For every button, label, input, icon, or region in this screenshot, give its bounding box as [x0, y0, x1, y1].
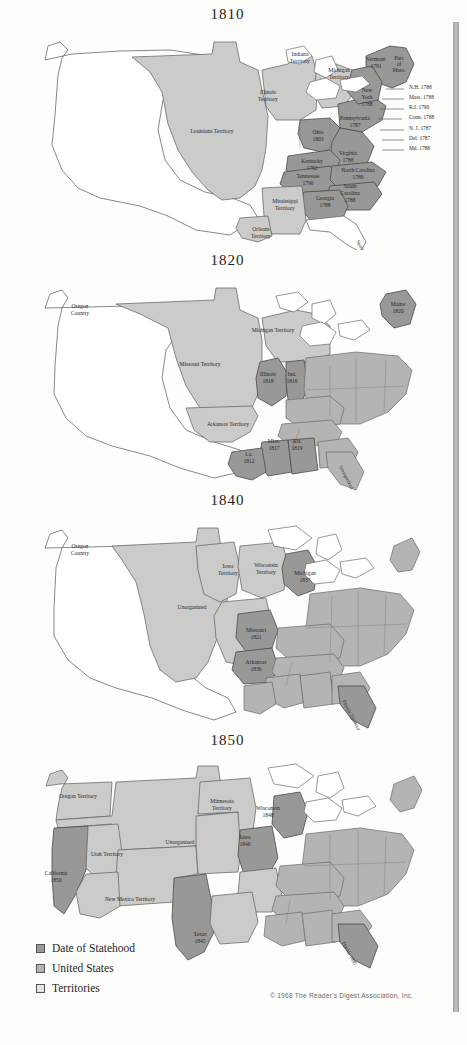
map-panel-1820: 1820 [0, 252, 455, 492]
map-label: Oregon [72, 303, 89, 309]
map-callout-label: Md. 1788 [409, 145, 430, 151]
legend: Date of Statehood United States Territor… [36, 938, 135, 998]
map-label: 1788 [361, 101, 372, 107]
map-svg-1820: OregonCountryMissouri TerritoryMichigan … [0, 266, 455, 494]
legend-item-united-states: United States [36, 958, 135, 978]
map-label: 1812 [243, 458, 254, 464]
map-panel-1810: 1810 [0, 6, 455, 246]
map-label: Michigan Territory [252, 327, 295, 333]
map-label: Indiana [292, 51, 309, 57]
map-label: 1787 [349, 122, 360, 128]
map-label: Wisconsin [256, 805, 280, 811]
map-label: 1816 [286, 378, 297, 384]
map-label: Ind. [288, 371, 297, 377]
map-label: 1846 [239, 841, 250, 847]
map-label: Territory [275, 205, 295, 211]
map-label: Unorganized [166, 839, 195, 845]
map-label: 1836 [250, 666, 261, 672]
map-label: 1848 [262, 812, 273, 818]
map-label: 1820 [392, 308, 403, 314]
legend-label-statehood: Date of Statehood [52, 942, 135, 954]
map-label: Maine [391, 301, 406, 307]
map-label: York [362, 94, 373, 100]
map-label: Utah Territory [91, 851, 123, 857]
map-label: 1821 [250, 634, 261, 640]
map-label: Wisconsin [254, 562, 278, 568]
map-label: Unorganized [178, 604, 207, 610]
map-label: North Carolina [341, 167, 375, 173]
map-label: Minnesota [210, 798, 234, 804]
map-label: Illinois [260, 89, 276, 95]
legend-swatch-united-states [36, 964, 45, 973]
map-panel-1850: 1850 [0, 732, 455, 972]
map-label: Arkansas Territory [207, 421, 249, 427]
map-label: Country [71, 310, 90, 316]
map-label: California [45, 870, 68, 876]
map-label: Miss. [268, 438, 281, 444]
map-label: 1817 [268, 445, 279, 451]
map-label: Illinois [260, 371, 276, 377]
map-label: 1803 [312, 136, 323, 142]
map-label: Territory [258, 96, 278, 102]
legend-item-statehood: Date of Statehood [36, 938, 135, 958]
map-label: Ala. [292, 438, 302, 444]
map-label: Michigan [294, 570, 316, 576]
map-label: Missouri Territory [180, 361, 221, 367]
map-panel-1840: 1840 [0, 492, 455, 732]
map-label: 1788 [342, 157, 353, 163]
map-label: Tennessee [297, 173, 320, 179]
legend-item-territories: Territories [36, 978, 135, 998]
map-label: New Mexico Territory [105, 896, 155, 902]
map-label: 1788 [319, 202, 330, 208]
map-label: South [343, 183, 356, 189]
map-page: 1810 [0, 0, 467, 1045]
map-label: Territory [290, 58, 310, 64]
legend-swatch-statehood [36, 944, 45, 953]
map-label: Territory [218, 570, 238, 576]
legend-label-united-states: United States [52, 962, 114, 974]
map-label: 1796 [302, 180, 313, 186]
map-callout-label: Del. 1787 [409, 135, 431, 141]
copyright-notice: © 1968 The Reader's Digest Association, … [270, 992, 413, 999]
map-label: Louisiana Territory [190, 128, 233, 134]
map-label: Territory [212, 805, 232, 811]
map-label: 1818 [262, 378, 273, 384]
map-label: Georgia [316, 195, 334, 201]
map-label: Orleans [252, 226, 269, 232]
map-callout-label: Conn. 1788 [409, 114, 434, 120]
map-callout-label: N.H. 1788 [409, 84, 432, 90]
map-label: Missouri [246, 627, 266, 633]
map-callout-label: N. J. 1787 [409, 125, 431, 131]
map-label: Mass. [392, 67, 406, 73]
map-label: Vermont [366, 56, 386, 62]
map-label: 1850 [50, 877, 61, 883]
map-label: Iowa [222, 563, 234, 569]
legend-label-territories: Territories [52, 982, 100, 994]
map-label: 1788 [344, 197, 355, 203]
map-label: Oregon [72, 543, 89, 549]
map-label: 1791 [370, 63, 381, 69]
map-svg-1840: OregonCountryIowaTerritoryWisconsinTerri… [0, 506, 455, 734]
map-label: Michigan [328, 67, 350, 73]
legend-swatch-territories [36, 984, 45, 993]
map-label: Iowa [239, 834, 251, 840]
map-label: Virginia [339, 150, 358, 156]
map-label: Ohio [312, 129, 323, 135]
map-label: Territory [329, 74, 349, 80]
map-label: Country [71, 550, 90, 556]
map-label: New [362, 87, 374, 93]
map-label: 1792 [306, 165, 317, 171]
map-label: Territory [256, 569, 276, 575]
map-label: 1819 [291, 445, 302, 451]
map-label: Carolina [340, 190, 360, 196]
map-label: Oregon Territory [59, 793, 97, 799]
map-svg-1810: IndianaTerritoryMichiganTerritoryIllinoi… [0, 20, 455, 250]
map-label: 1845 [194, 938, 205, 944]
map-label: Territory [251, 233, 271, 239]
map-label: Mississippi [272, 198, 298, 204]
map-label: Kentucky [301, 158, 323, 164]
map-label: La. [245, 451, 253, 457]
map-label: 1837 [299, 577, 310, 583]
map-callout-label: Mass. 1788 [409, 94, 434, 100]
map-label: 1789 [352, 174, 363, 180]
